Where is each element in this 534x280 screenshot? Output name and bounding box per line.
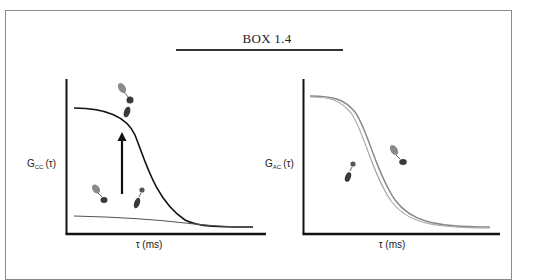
x-axis-label-cc: τ (ms) (136, 239, 163, 250)
unbound-molecule-b-icon (132, 187, 144, 209)
y-axis-label-ac: GAC(τ) (265, 158, 294, 170)
x-axis-label-ac: τ (ms) (379, 239, 406, 250)
unbound-molecule-a-icon (388, 143, 407, 165)
bound-molecule-icon (116, 81, 133, 118)
unbound-molecule-b-icon (344, 161, 356, 182)
curve-bound (74, 108, 253, 227)
up-arrow-icon (118, 132, 127, 194)
panel-cross-correlation: GCC(τ) τ (ms) (27, 79, 266, 250)
panel-autocorrelation: GAC(τ) τ (ms) (265, 79, 500, 250)
unbound-molecule-a-icon (90, 183, 107, 203)
y-axis-label-cc: GCC(τ) (27, 158, 56, 170)
curve-unbound (74, 216, 253, 227)
